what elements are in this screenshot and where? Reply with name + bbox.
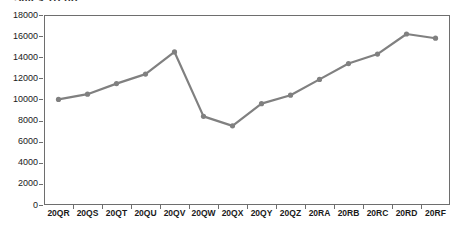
series-polyline [59, 34, 436, 126]
x-axis-tick-mark [160, 205, 161, 209]
x-axis-tick-mark [305, 205, 306, 209]
data-point [317, 77, 322, 82]
x-axis-tick-mark [334, 205, 335, 209]
y-axis-tick-label: 0 [4, 201, 38, 210]
x-axis-tick-label: 20QS [77, 208, 99, 218]
data-point [259, 101, 264, 106]
y-axis-tick-label: 14000 [4, 53, 38, 62]
data-point [172, 49, 177, 54]
y-axis-tick-label: 18000 [4, 11, 38, 20]
x-axis-tick-mark [247, 205, 248, 209]
x-axis-tick-label: 20RC [367, 208, 389, 218]
y-axis-tick-mark [39, 184, 43, 185]
y-axis: 1800016000140001200010000800060004000200… [0, 0, 38, 227]
x-axis-tick-mark [102, 205, 103, 209]
data-point [404, 31, 409, 36]
x-axis: 20QR20QS20QT20QU20QV20QW20QX20QY20QZ20RA… [44, 208, 450, 224]
x-axis-tick-label: 20RA [309, 208, 331, 218]
y-axis-tick-label: 12000 [4, 74, 38, 83]
line-chart: Sales Trend 1800016000140001200010000800… [0, 0, 458, 227]
data-point [346, 61, 351, 66]
data-point [85, 92, 90, 97]
y-axis-tick-mark [39, 205, 43, 206]
y-axis-tick-mark [39, 121, 43, 122]
data-point [114, 81, 119, 86]
data-point [143, 72, 148, 77]
x-axis-tick-label: 20QV [164, 208, 186, 218]
x-axis-tick-mark [73, 205, 74, 209]
x-axis-tick-mark [189, 205, 190, 209]
y-axis-tick-label: 16000 [4, 32, 38, 41]
x-axis-tick-label: 20RD [396, 208, 418, 218]
x-axis-tick-mark [276, 205, 277, 209]
y-axis-tick-label: 4000 [4, 158, 38, 167]
x-axis-tick-label: 20QU [134, 208, 156, 218]
y-axis-tick-mark [39, 99, 43, 100]
data-point [433, 36, 438, 41]
y-axis-tick-label: 2000 [4, 179, 38, 188]
y-axis-tick-mark [39, 57, 43, 58]
y-axis-tick-mark [39, 36, 43, 37]
x-axis-tick-mark [421, 205, 422, 209]
x-axis-tick-mark [392, 205, 393, 209]
x-axis-tick-label: 20QT [106, 208, 127, 218]
y-axis-tick-mark [39, 142, 43, 143]
data-point [201, 114, 206, 119]
x-axis-tick-mark [363, 205, 364, 209]
x-axis-tick-label: 20QY [251, 208, 273, 218]
x-axis-tick-label: 20QW [191, 208, 215, 218]
y-axis-tick-mark [39, 163, 43, 164]
y-axis-tick-mark [39, 78, 43, 79]
y-axis-tick-mark [39, 15, 43, 16]
y-axis-tick-label: 6000 [4, 137, 38, 146]
x-axis-tick-label: 20RF [425, 208, 446, 218]
data-point [375, 51, 380, 56]
y-axis-tick-label: 8000 [4, 116, 38, 125]
series-line-layer [44, 15, 450, 205]
x-axis-tick-mark [218, 205, 219, 209]
data-point [288, 93, 293, 98]
x-axis-tick-label: 20QZ [280, 208, 301, 218]
x-axis-tick-label: 20QX [222, 208, 244, 218]
x-axis-tick-label: 20QR [47, 208, 69, 218]
x-axis-tick-label: 20RB [338, 208, 360, 218]
x-axis-tick-mark [131, 205, 132, 209]
data-point [230, 123, 235, 128]
y-axis-tick-label: 10000 [4, 95, 38, 104]
data-point [56, 97, 61, 102]
